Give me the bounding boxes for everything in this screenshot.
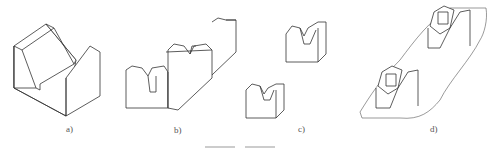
figure-caption-cropped — [205, 146, 295, 150]
panel-b-drawing — [126, 18, 236, 110]
panel-c-label: c) — [298, 124, 305, 134]
panel-d-drawing — [360, 6, 487, 118]
panel-d-label: d) — [430, 124, 438, 134]
v-block-figure — [0, 0, 497, 151]
panel-b-label: b) — [174, 125, 182, 135]
panel-a-label: a) — [66, 124, 73, 134]
panel-c-drawing — [246, 22, 326, 118]
panel-a-drawing — [14, 24, 100, 116]
